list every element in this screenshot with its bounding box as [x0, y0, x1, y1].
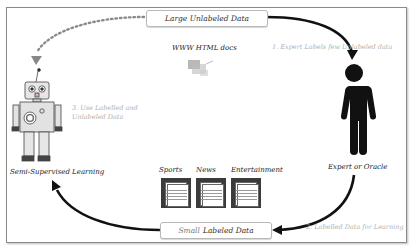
- small-labeled-data-label: Labeled Data: [203, 226, 254, 235]
- arrowhead-learner: [52, 180, 61, 191]
- step-2-label: 2. Labelled Data for Learning: [306, 223, 404, 232]
- web-documents-icon: [186, 58, 216, 80]
- arrowhead-small-data: [272, 225, 282, 235]
- arrows-layer: [0, 0, 411, 249]
- arrow-small-data-to-learner: [57, 190, 160, 230]
- arrow-expert-to-small-data: [278, 175, 354, 230]
- robot-icon: [12, 69, 62, 161]
- category-sports-label: Sports: [159, 166, 182, 174]
- www-caption: WWW HTML docs: [172, 44, 237, 52]
- learner-label: Semi-Supervised Learning: [10, 168, 104, 176]
- arrowhead-learner-dotted: [31, 56, 42, 65]
- step-3-label-line2: Unlabeled Data: [72, 113, 123, 122]
- step-3-label-line1: 3. Use Labelled and: [72, 104, 138, 113]
- arrow-data-to-learner-dotted: [37, 17, 144, 52]
- large-unlabeled-data-label: Large Unlabeled Data: [165, 14, 249, 23]
- small-labeled-data-prefix: Small: [178, 226, 200, 235]
- small-labeled-data-node: Small Labeled Data: [160, 222, 272, 239]
- large-unlabeled-data-node: Large Unlabeled Data: [146, 10, 268, 27]
- entertainment-documents-icon: [231, 178, 261, 208]
- category-entertainment-label: Entertainment: [231, 166, 283, 174]
- expert-label: Expert or Oracle: [328, 163, 387, 171]
- news-documents-icon: [196, 178, 226, 208]
- person-icon: [341, 64, 376, 155]
- category-news-label: News: [196, 166, 216, 174]
- sports-documents-icon: [161, 178, 191, 208]
- step-1-label: 1. Expert Labels few Unlabeled data: [272, 43, 392, 52]
